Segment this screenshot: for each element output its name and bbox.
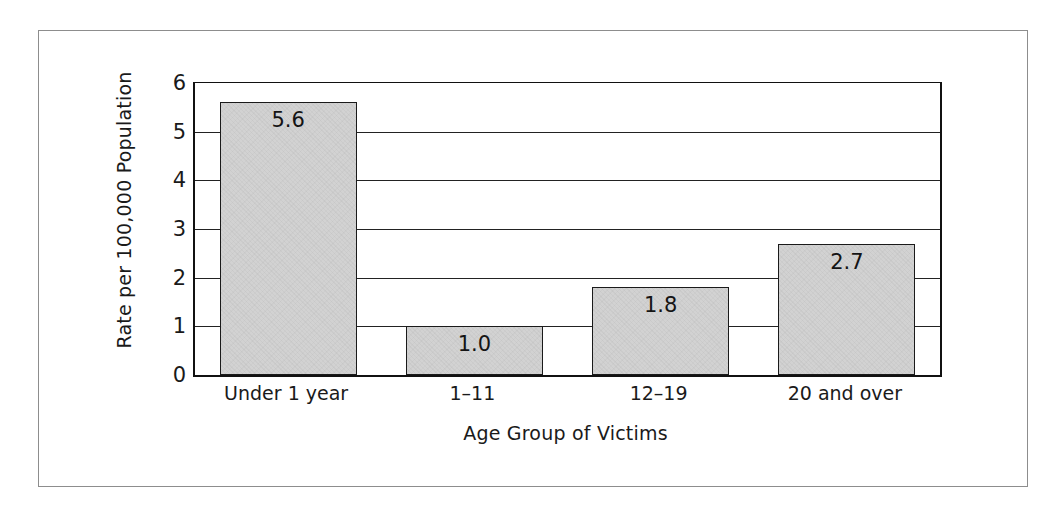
x-tick-label: 12–19 (566, 382, 752, 404)
x-tick-label: Under 1 year (193, 382, 379, 404)
y-tick-label: 1 (173, 316, 186, 337)
y-tick-label: 2 (173, 267, 186, 288)
bar-value-label: 5.6 (221, 110, 356, 131)
plot-area: 01234565.61.01.82.7 (193, 82, 942, 377)
y-axis-title: Rate per 100,000 Population (113, 65, 135, 355)
bar: 2.7 (778, 244, 915, 375)
y-tick-label: 6 (173, 73, 186, 94)
figure-frame: Rate per 100,000 Population 01234565.61.… (38, 30, 1028, 487)
bar-value-label: 1.8 (593, 295, 728, 316)
bar: 1.8 (592, 287, 729, 375)
x-tick-label: 20 and over (752, 382, 938, 404)
bar: 1.0 (406, 326, 543, 375)
x-tick-label: 1–11 (379, 382, 565, 404)
y-tick-label: 4 (173, 170, 186, 191)
bar: 5.6 (220, 102, 357, 375)
x-axis-title: Age Group of Victims (193, 422, 938, 444)
bar-value-label: 2.7 (779, 252, 914, 273)
y-tick-label: 5 (173, 121, 186, 142)
y-tick-label: 3 (173, 219, 186, 240)
bar-value-label: 1.0 (407, 334, 542, 355)
y-tick-label: 0 (173, 365, 186, 386)
bar-chart: Rate per 100,000 Population 01234565.61.… (39, 31, 1029, 488)
